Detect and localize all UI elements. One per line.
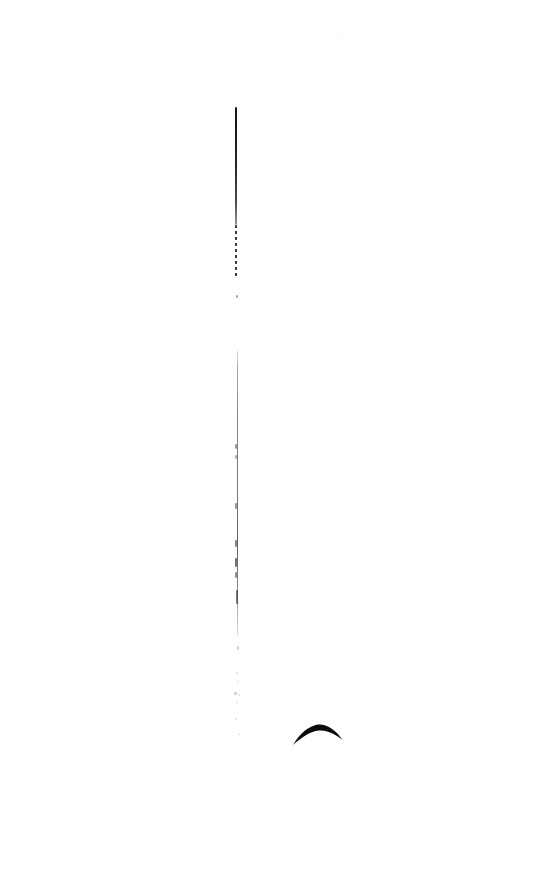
streak-dot (236, 702, 238, 704)
streak-blotch (235, 558, 238, 567)
streak-blotch (236, 590, 238, 604)
streak-segment-broken (235, 225, 237, 277)
streak-blotch (235, 540, 238, 547)
streak-dot (238, 733, 240, 735)
streak-dot (237, 681, 239, 683)
crescent-ink-stroke (290, 718, 346, 750)
paper-grain-texture (0, 0, 542, 883)
streak-dot (234, 692, 237, 695)
streak-dot (236, 672, 238, 674)
streak-dot (238, 694, 240, 696)
scanned-page (0, 0, 542, 883)
streak-dot (237, 646, 239, 650)
streak-dot (235, 718, 237, 720)
streak-segment-dark (235, 107, 237, 225)
streak-gap-speck (236, 295, 238, 298)
